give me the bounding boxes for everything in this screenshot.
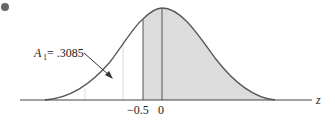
- z-axis-label: z: [315, 93, 321, 107]
- annotation-arrow: [84, 53, 110, 76]
- shaded-area: [143, 8, 275, 100]
- annotation-A: A: [33, 46, 42, 60]
- tick-neg-half: −0.5: [127, 103, 149, 117]
- normal-curve-figure: z −0.5 0 A 1 = .3085: [0, 0, 335, 124]
- bullet-icon: [1, 3, 9, 11]
- tick-zero: 0: [158, 103, 164, 117]
- annotation-value: = .3085: [47, 46, 84, 60]
